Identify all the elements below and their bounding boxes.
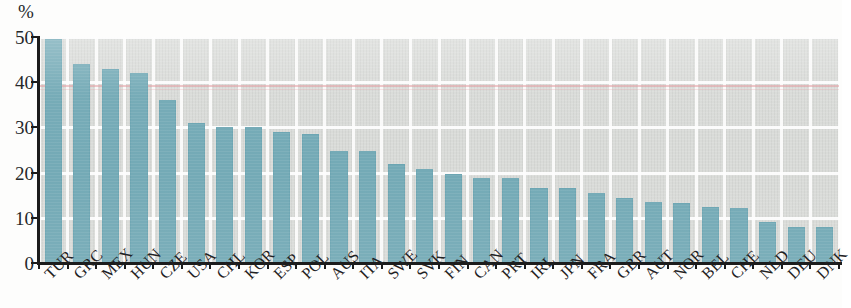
y-axis-tick-mark (31, 81, 39, 83)
bars-layer (39, 37, 839, 263)
plot-area (39, 37, 839, 263)
y-axis-tick-mark (31, 172, 39, 174)
y-axis-tick-mark (31, 217, 39, 219)
x-axis-category-labels: TURGRCMEXHUNCZEUSACHLKORESPPOLAUSITASWES… (0, 266, 842, 308)
bar (216, 127, 233, 263)
bar (245, 127, 262, 263)
bar (130, 73, 147, 263)
bar (302, 134, 319, 263)
bar (159, 100, 176, 263)
bar (188, 123, 205, 263)
bar (73, 64, 90, 263)
bar (445, 174, 462, 263)
bar (388, 164, 405, 263)
bar (416, 169, 433, 263)
bar (359, 151, 376, 263)
bar (102, 69, 119, 263)
bar (330, 151, 347, 263)
y-axis-tick-mark (31, 36, 39, 38)
y-axis-tick-mark (31, 126, 39, 128)
bar (273, 132, 290, 263)
bar (45, 39, 62, 263)
y-axis-line (37, 36, 40, 265)
